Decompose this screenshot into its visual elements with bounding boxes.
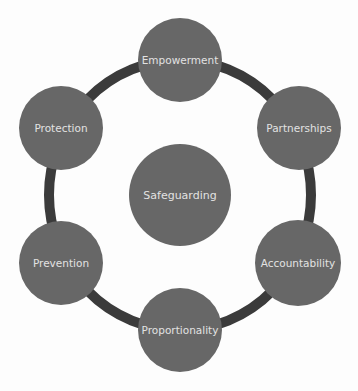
node-partnerships: Partnerships [257,86,341,170]
node-label: Accountability [261,257,336,269]
node-prevention: Prevention [19,221,103,305]
diagram-canvas: Empowerment Partnerships Accountability … [0,0,358,391]
node-proportionality: Proportionality [138,288,222,372]
node-label: Protection [34,122,87,134]
node-protection: Protection [19,86,103,170]
node-accountability: Accountability [255,220,341,306]
node-label: Prevention [33,257,89,269]
safeguarding-principles-diagram: Empowerment Partnerships Accountability … [0,0,358,391]
node-label: Partnerships [266,122,331,134]
center-label: Safeguarding [143,189,216,202]
center-node-safeguarding: Safeguarding [129,144,231,246]
node-empowerment: Empowerment [138,18,222,102]
node-label: Proportionality [142,324,219,336]
node-label: Empowerment [142,54,219,66]
